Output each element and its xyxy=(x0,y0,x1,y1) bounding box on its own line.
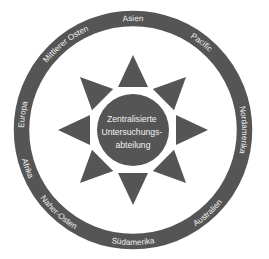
ray-arrow-icon xyxy=(58,115,90,145)
ray-arrow-icon xyxy=(118,173,148,205)
center-label-line-1: Zentralisierte xyxy=(107,114,157,124)
center-label-line-3: abteilung xyxy=(116,140,151,150)
region-label-asien: Asien xyxy=(122,14,144,24)
hub-and-spoke-diagram: Zentralisierte Untersuchungs- abteilung … xyxy=(0,0,269,259)
region-label-mittlerer-osten: Mittlerer Osten xyxy=(41,24,90,65)
region-label-naher-osten: Naher-Osten xyxy=(39,194,79,231)
center-label-line-2: Untersuchungs- xyxy=(101,127,162,137)
ray-arrow-icon xyxy=(118,55,148,87)
ray-arrow-icon xyxy=(176,115,208,145)
